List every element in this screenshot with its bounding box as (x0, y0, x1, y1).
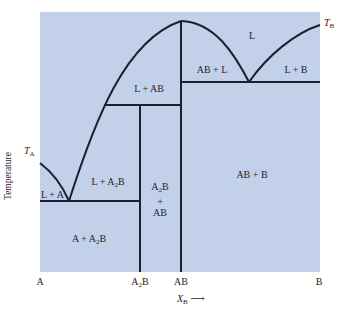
marker-TB: TB (324, 18, 334, 30)
region-L-plus-A: L + A (41, 190, 64, 200)
region-L: L (249, 31, 255, 41)
region-AB-plus-B: AB + B (236, 170, 267, 180)
arrow-right-icon: ⟶ (190, 293, 204, 304)
x-tick-B: B (316, 277, 323, 287)
region-A-plus-A2B: A + A2B (72, 234, 106, 246)
region-L-plus-AB: L + AB (134, 84, 164, 94)
x-tick-A: A (36, 277, 43, 287)
y-axis-label: Temperature (3, 152, 13, 200)
x-axis-label: XB ⟶ (177, 294, 205, 306)
region-A2B-plus-AB: A2B + AB (151, 181, 168, 218)
x-tick-AB: AB (174, 277, 188, 287)
x-tick-A2B: A2B (131, 277, 148, 289)
phase-diagram-canvas (0, 0, 347, 314)
region-L-plus-A2B: L + A2B (91, 177, 124, 189)
region-L-plus-B: L + B (284, 65, 307, 75)
region-AB-plus-L: AB + L (197, 65, 228, 75)
marker-TA: TA (24, 146, 35, 158)
